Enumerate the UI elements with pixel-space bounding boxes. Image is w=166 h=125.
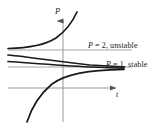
annotation-p2-text: = 2, unstable xyxy=(93,41,138,50)
annotation-p2-unstable: P = 2, unstable xyxy=(88,41,138,50)
t-axis-label: t xyxy=(116,90,118,99)
solution-curve-rising-from-below xyxy=(27,69,124,122)
phase-diagram-figure: P t P = 2, unstable P = 1, stable xyxy=(0,0,166,125)
solution-curve-diverging xyxy=(8,12,77,49)
annotation-p1-text: = 1, stable xyxy=(111,60,147,69)
annotation-p1-stable: P = 1, stable xyxy=(106,60,147,69)
p-axis-label: P xyxy=(55,6,60,16)
